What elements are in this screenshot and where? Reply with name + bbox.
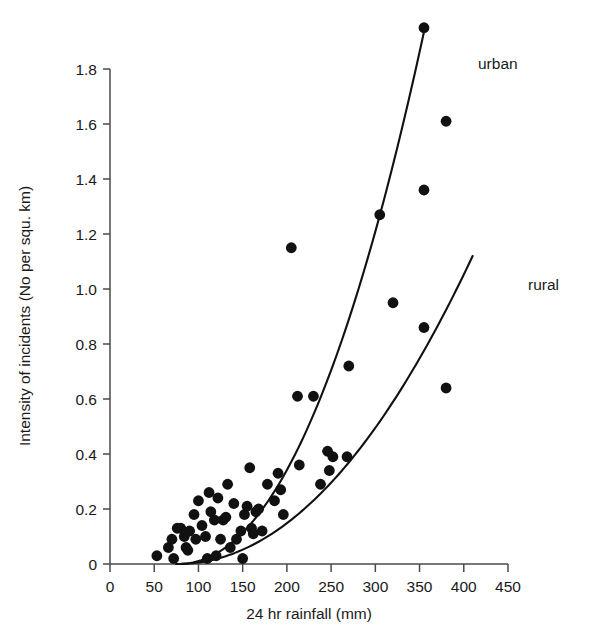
x-tick-label: 350 <box>407 578 433 595</box>
y-axis-title: Intensity of incidents (No per squ. km) <box>16 186 33 446</box>
data-point <box>253 504 264 515</box>
data-point <box>419 185 430 196</box>
data-point <box>262 479 273 490</box>
data-point <box>275 484 286 495</box>
scatter-plot-svg: 00.20.40.60.81.01.21.41.61.8 05010015020… <box>0 0 614 643</box>
data-point <box>292 391 303 402</box>
data-point <box>273 468 284 479</box>
y-tick-label: 0.6 <box>75 391 97 408</box>
y-axis: 00.20.40.60.81.01.21.41.61.8 <box>75 61 110 573</box>
data-point <box>278 509 289 520</box>
data-point <box>441 383 452 394</box>
data-point <box>222 479 233 490</box>
data-point <box>228 498 239 509</box>
data-point <box>327 451 338 462</box>
y-tick-label: 0.4 <box>75 446 97 463</box>
data-point <box>441 116 452 127</box>
y-tick-label: 0 <box>88 556 97 573</box>
data-point <box>182 545 193 556</box>
y-tick-label: 1.8 <box>75 61 97 78</box>
data-point <box>197 520 208 531</box>
data-point <box>215 534 226 545</box>
data-point <box>237 553 248 564</box>
curve-label-urban: urban <box>478 55 518 72</box>
data-point <box>286 242 297 253</box>
y-tick-label: 0.8 <box>75 336 97 353</box>
data-point <box>151 550 162 561</box>
data-point <box>294 460 305 471</box>
data-point <box>167 534 178 545</box>
data-point <box>419 22 430 33</box>
data-point <box>200 531 211 542</box>
curve-label-rural: rural <box>528 276 559 293</box>
data-point <box>189 509 200 520</box>
data-point <box>269 495 280 506</box>
data-point <box>419 322 430 333</box>
x-tick-label: 100 <box>186 578 212 595</box>
data-point <box>220 512 231 523</box>
data-point <box>213 493 224 504</box>
x-axis: 050100150200250300350400450 <box>106 564 522 595</box>
data-point <box>388 297 399 308</box>
chart-figure: 00.20.40.60.81.01.21.41.61.8 05010015020… <box>0 0 614 643</box>
x-tick-label: 50 <box>146 578 164 595</box>
curve-labels: urbanrural <box>478 55 559 293</box>
data-point <box>374 209 385 220</box>
data-point <box>236 526 247 537</box>
x-tick-label: 300 <box>362 578 388 595</box>
data-points <box>151 22 451 564</box>
data-point <box>324 465 335 476</box>
data-point <box>211 550 222 561</box>
y-tick-label: 1.0 <box>75 281 97 298</box>
x-tick-label: 150 <box>230 578 256 595</box>
data-point <box>343 361 354 372</box>
data-point <box>315 479 326 490</box>
data-point <box>168 553 179 564</box>
y-tick-label: 1.2 <box>75 226 97 243</box>
x-axis-title: 24 hr rainfall (mm) <box>246 605 372 622</box>
x-tick-label: 0 <box>106 578 115 595</box>
x-tick-label: 450 <box>495 578 521 595</box>
y-tick-label: 1.4 <box>75 171 97 188</box>
x-tick-label: 250 <box>318 578 344 595</box>
data-point <box>244 462 255 473</box>
data-point <box>308 391 319 402</box>
data-point <box>193 495 204 506</box>
x-tick-label: 400 <box>451 578 477 595</box>
y-tick-label: 0.2 <box>75 501 97 518</box>
data-point <box>190 534 201 545</box>
x-tick-label: 200 <box>274 578 300 595</box>
fit-curve-urban <box>176 28 425 564</box>
data-point <box>342 451 353 462</box>
y-tick-label: 1.6 <box>75 116 97 133</box>
data-point <box>257 526 268 537</box>
